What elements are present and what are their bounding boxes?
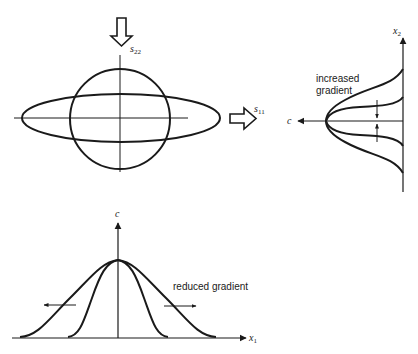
load-down-arrow-icon — [111, 18, 132, 46]
load-right-arrow-icon — [230, 108, 256, 129]
reduced-gradient-label: reduced gradient — [173, 281, 248, 292]
increased-gradient-label-line2: gradient — [316, 85, 352, 96]
c-axis-label-right-panel: c — [287, 115, 292, 126]
x2-axis-label: x2 — [392, 25, 401, 38]
x1-axis-label: x1 — [248, 332, 257, 345]
x1-profile-panel: x1 c reduced gradient — [12, 208, 257, 345]
stress-state-panel: s22 s11 — [14, 18, 265, 172]
s11-label: s11 — [254, 103, 265, 116]
figure-canvas: s22 s11 x2 c increased gradient — [0, 0, 418, 354]
x2-profile-panel: x2 c increased gradient — [287, 25, 403, 192]
c-axis-label-bottom-panel: c — [115, 208, 120, 219]
s22-label: s22 — [130, 43, 141, 56]
increased-gradient-label: increased — [316, 73, 359, 84]
